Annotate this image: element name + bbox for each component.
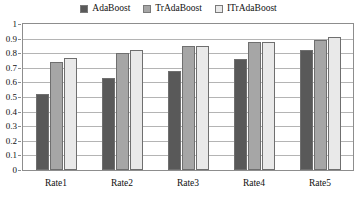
bar-group (36, 24, 77, 170)
bars-layer (23, 24, 353, 170)
legend-entry: TrAdaBoost (143, 4, 202, 14)
x-tick-label: Rate1 (45, 172, 67, 189)
y-tick-label: 0 (13, 166, 18, 175)
y-tick-mark (18, 82, 21, 83)
y-tick-mark (18, 68, 21, 69)
y-tick-label: 0.7 (6, 63, 17, 72)
x-axis: Rate1Rate2Rate3Rate4Rate5 (23, 172, 353, 194)
y-tick-mark (18, 112, 21, 113)
x-tick-label: Rate5 (309, 172, 331, 189)
bar-group (300, 24, 341, 170)
bar (168, 71, 181, 170)
bar (314, 40, 327, 170)
y-tick-label: 0.1 (6, 151, 17, 160)
legend-swatch-icon (215, 5, 223, 13)
bar (328, 37, 341, 170)
bar (130, 50, 143, 170)
bar (262, 42, 275, 170)
legend-label: ITrAdaBoost (227, 4, 277, 14)
x-tick-label: Rate3 (177, 172, 199, 189)
x-tick-label: Rate2 (111, 172, 133, 189)
y-tick-mark (18, 53, 21, 54)
y-tick-mark (18, 97, 21, 98)
x-tick-label: Rate4 (243, 172, 265, 189)
legend-label: TrAdaBoost (155, 4, 202, 14)
bar (36, 94, 49, 170)
legend-swatch-icon (143, 5, 151, 13)
y-tick-label: 0.8 (6, 49, 17, 58)
bar (300, 50, 313, 170)
bar (50, 62, 63, 170)
legend-entry: ITrAdaBoost (215, 4, 277, 14)
legend-swatch-icon (80, 5, 88, 13)
bar (234, 59, 247, 170)
chart-legend: AdaBoostTrAdaBoostITrAdaBoost (0, 1, 357, 17)
y-tick-mark (18, 39, 21, 40)
bar (64, 58, 77, 170)
y-axis: 00.10.20.30.40.50.60.70.80.91 (0, 23, 21, 171)
y-tick-label: 0.9 (6, 34, 17, 43)
bar-group (234, 24, 275, 170)
bar-group (102, 24, 143, 170)
bar-chart: AdaBoostTrAdaBoostITrAdaBoost 00.10.20.3… (0, 0, 357, 204)
y-tick-mark (18, 155, 21, 156)
bar (102, 78, 115, 170)
bar (248, 42, 261, 170)
y-tick-label: 0.6 (6, 78, 17, 87)
y-tick-label: 0.3 (6, 122, 17, 131)
bar (196, 46, 209, 170)
y-tick-label: 0.5 (6, 93, 17, 102)
bar (116, 53, 129, 170)
legend-entry: AdaBoost (80, 4, 130, 14)
bar (182, 46, 195, 170)
y-tick-mark (18, 24, 21, 25)
y-tick-label: 0.2 (6, 136, 17, 145)
y-tick-mark (18, 141, 21, 142)
y-tick-label: 0.4 (6, 107, 17, 116)
bar-group (168, 24, 209, 170)
y-tick-label: 1 (13, 20, 18, 29)
legend-label: AdaBoost (92, 4, 130, 14)
y-tick-mark (18, 170, 21, 171)
y-tick-mark (18, 126, 21, 127)
